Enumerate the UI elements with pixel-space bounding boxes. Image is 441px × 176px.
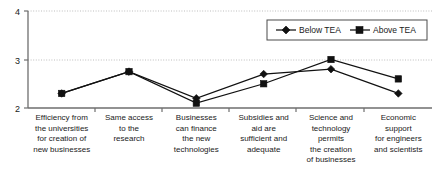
category-label: Efficiency fromthe universitiesfor creat…	[33, 113, 90, 154]
data-point	[126, 68, 132, 74]
legend[interactable]: Below TEA Above TEA	[267, 20, 427, 40]
category-label: Science andtechnologypermitsthe creation…	[307, 113, 356, 164]
square-icon	[356, 27, 363, 34]
y-tick-label-4: 4	[15, 7, 20, 17]
legend-label-above-tea: Above TEA	[373, 25, 416, 35]
y-tick-label-3: 3	[15, 56, 20, 66]
series-layer	[58, 56, 402, 106]
category-label: Economicsupportfor engineersand scientis…	[374, 113, 422, 154]
legend-label-below-tea: Below TEA	[299, 25, 341, 35]
category-label: Same accessto theresearch	[105, 113, 153, 143]
data-point	[260, 81, 266, 87]
legend-item-below-tea[interactable]: Below TEA	[276, 25, 341, 35]
legend-item-above-tea[interactable]: Above TEA	[350, 25, 416, 35]
category-label: Subsidies andaid aresufficient andadequa…	[239, 113, 289, 154]
data-point	[193, 100, 199, 106]
data-point	[58, 90, 64, 96]
category-label: Businessescan financethe newtechnologies	[174, 113, 219, 154]
y-tick-label-2: 2	[15, 104, 20, 114]
data-point	[327, 65, 335, 73]
series-below-tea	[58, 65, 402, 102]
series-above-tea	[58, 56, 401, 106]
data-point	[328, 56, 334, 62]
data-point	[395, 90, 403, 98]
line-chart: 4 3 2 Efficiency fromthe universitiesfor…	[0, 0, 441, 176]
chart-container: 4 3 2 Efficiency fromthe universitiesfor…	[0, 0, 441, 176]
data-point	[260, 70, 268, 78]
category-labels: Efficiency fromthe universitiesfor creat…	[33, 113, 422, 164]
series-line	[62, 60, 399, 104]
data-point	[395, 76, 401, 82]
